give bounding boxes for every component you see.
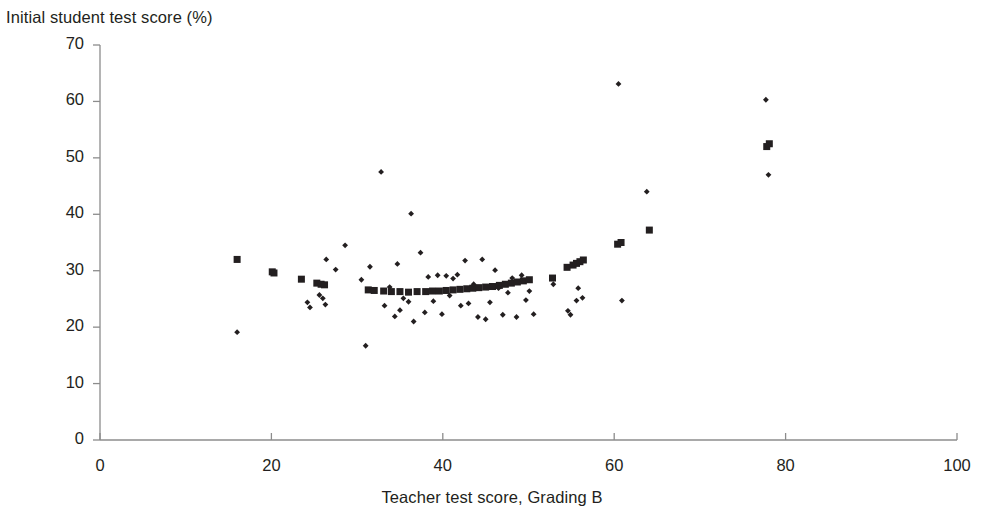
data-point-observations	[479, 257, 485, 263]
data-point-observations	[443, 273, 449, 279]
data-point-observations	[422, 310, 428, 316]
data-point-observations	[526, 288, 532, 294]
data-point-observations	[367, 264, 373, 270]
data-point-fitted	[514, 279, 521, 286]
data-point-observations	[575, 285, 581, 291]
data-point-fitted	[365, 286, 372, 293]
y-tick-label-50: 50	[24, 147, 84, 166]
data-point-fitted	[646, 227, 653, 234]
data-point-observations	[531, 311, 537, 317]
data-point-fitted	[414, 288, 421, 295]
data-point-observations	[514, 314, 520, 320]
data-point-observations	[342, 242, 348, 248]
data-point-fitted	[270, 269, 277, 276]
y-tick-label-30: 30	[24, 260, 84, 279]
data-point-fitted	[380, 288, 387, 295]
y-tick-label-0: 0	[24, 429, 84, 448]
data-point-fitted	[618, 239, 625, 246]
x-tick-label-0: 0	[70, 456, 130, 475]
chart-figure: Initial student test score (%) 010203040…	[0, 0, 984, 524]
data-point-observations	[408, 211, 414, 217]
data-point-observations	[523, 297, 529, 303]
data-point-fitted	[463, 285, 470, 292]
data-point-observations	[492, 267, 498, 273]
data-point-observations	[475, 314, 481, 320]
data-point-observations	[392, 314, 398, 320]
scatter-plot-canvas	[0, 0, 984, 524]
series-observation-markers	[234, 81, 771, 349]
data-point-observations	[397, 307, 403, 313]
data-point-observations	[378, 169, 384, 175]
data-point-observations	[505, 290, 511, 296]
data-point-observations	[430, 298, 436, 304]
data-point-observations	[483, 316, 489, 322]
x-tick-label-60: 60	[584, 456, 644, 475]
data-point-observations	[358, 277, 364, 283]
data-point-fitted	[405, 289, 412, 296]
data-point-fitted	[508, 280, 515, 287]
data-point-observations	[619, 298, 625, 304]
data-point-observations	[234, 329, 240, 335]
data-point-fitted	[234, 256, 241, 263]
x-tick-label-100: 100	[927, 456, 984, 475]
data-point-observations	[323, 257, 329, 263]
data-point-fitted	[429, 288, 436, 295]
data-point-fitted	[422, 288, 429, 295]
data-point-observations	[454, 272, 460, 278]
data-point-observations	[382, 303, 388, 309]
data-point-observations	[363, 343, 369, 349]
data-point-fitted	[443, 287, 450, 294]
data-point-observations	[487, 299, 493, 305]
data-point-observations	[574, 298, 580, 304]
data-point-observations	[411, 319, 417, 325]
data-point-observations	[435, 272, 441, 278]
y-tick-label-70: 70	[24, 34, 84, 53]
data-point-observations	[406, 299, 412, 305]
data-point-observations	[333, 267, 339, 273]
data-point-fitted	[482, 284, 489, 291]
series-fitted-markers	[234, 140, 773, 295]
y-tick-label-40: 40	[24, 203, 84, 222]
data-point-observations	[763, 97, 769, 103]
data-point-observations	[425, 274, 431, 280]
data-point-observations	[462, 258, 468, 264]
data-point-fitted	[371, 287, 378, 294]
data-point-observations	[644, 189, 650, 195]
data-point-observations	[322, 302, 328, 308]
x-axis-title: Teacher test score, Grading B	[0, 488, 984, 507]
data-point-observations	[458, 303, 464, 309]
data-point-observations	[500, 312, 506, 318]
data-point-fitted	[456, 286, 463, 293]
data-point-fitted	[298, 276, 305, 283]
data-point-observations	[394, 261, 400, 267]
y-tick-label-20: 20	[24, 316, 84, 335]
data-point-observations	[418, 250, 424, 256]
data-point-observations	[307, 304, 313, 310]
data-point-fitted	[549, 275, 556, 282]
x-tick-label-40: 40	[413, 456, 473, 475]
data-point-observations	[400, 295, 406, 301]
data-point-observations	[550, 281, 556, 287]
data-point-observations	[439, 311, 445, 317]
data-point-fitted	[450, 286, 457, 293]
data-point-observations	[466, 301, 472, 307]
data-point-observations	[519, 272, 525, 278]
data-point-fitted	[475, 284, 482, 291]
data-point-fitted	[436, 288, 443, 295]
data-point-fitted	[396, 288, 403, 295]
x-tick-label-20: 20	[241, 456, 301, 475]
data-point-observations	[766, 172, 772, 178]
data-point-fitted	[766, 140, 773, 147]
data-point-observations	[616, 81, 622, 87]
axis-lines	[100, 45, 957, 440]
data-point-observations	[580, 295, 586, 301]
data-point-fitted	[489, 283, 496, 290]
data-point-fitted	[321, 281, 328, 288]
data-point-observations	[304, 299, 310, 305]
axis-ticks	[93, 45, 957, 440]
data-point-fitted	[564, 264, 571, 271]
y-tick-label-10: 10	[24, 373, 84, 392]
x-tick-label-80: 80	[756, 456, 816, 475]
y-tick-label-60: 60	[24, 90, 84, 109]
data-point-observations	[450, 276, 456, 282]
